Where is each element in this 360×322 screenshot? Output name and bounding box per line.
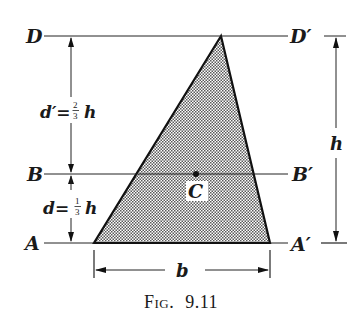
svg-text:d′=: d′= [40,102,71,122]
arrowhead-left-icon [95,267,106,273]
svg-text:3: 3 [75,207,80,217]
caption-number: 9.11 [185,292,218,312]
arrowhead-up-icon [68,37,74,47]
svg-text:2: 2 [73,100,78,110]
figure-caption: Fig. 9.11 [144,292,218,312]
label-h: h [330,133,343,154]
svg-text:1: 1 [75,196,80,206]
label-D-prime: D′ [289,25,312,47]
d-prime-formula: d′= 2 3 h [40,100,96,122]
label-A: A [23,232,40,254]
caption-prefix: Fig. [144,292,174,312]
arrowhead-right-icon [258,267,269,273]
svg-text:Fig. 9.11: Fig. 9.11 [144,292,218,312]
label-b: b [176,260,189,281]
centroid-point [193,171,199,177]
triangle-centroid-diagram: D B A D′ B′ A′ C d′= 2 3 h d= 1 3 h h b [0,0,360,322]
label-B-prime: B′ [291,163,313,185]
d-formula: d= 1 3 h [43,196,97,218]
arrowhead-down-icon [333,231,339,242]
label-D: D [25,25,43,47]
svg-text:h: h [85,198,97,218]
label-B: B [26,163,43,185]
arrowhead-down-icon [68,164,74,173]
svg-text:h: h [84,102,96,122]
arrowhead-up-icon [333,37,339,48]
label-C: C [188,180,203,202]
arrowhead-down-icon [68,232,74,242]
svg-text:3: 3 [73,111,78,121]
label-A-prime: A′ [289,233,311,255]
triangle-area [94,36,270,243]
svg-text:d=: d= [43,198,69,218]
